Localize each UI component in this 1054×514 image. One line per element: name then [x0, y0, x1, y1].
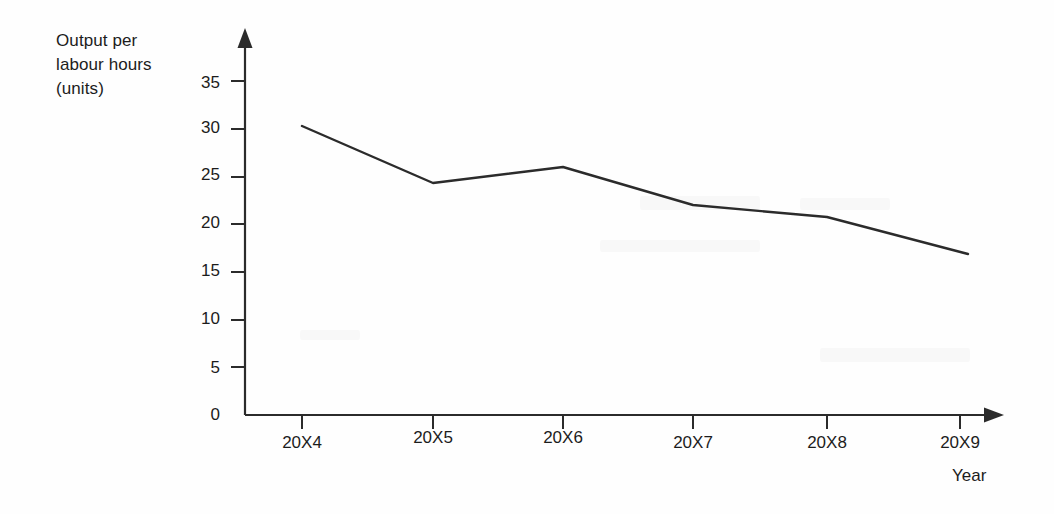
- y-axis-arrowhead: [238, 28, 253, 48]
- x-axis-ticks: [302, 415, 960, 429]
- line-chart-figure: Output per labour hours (units) Year 35 …: [0, 0, 1054, 514]
- y-axis-ticks: [231, 81, 245, 367]
- data-series-line: [302, 126, 968, 254]
- chart-plot-area: [0, 0, 1054, 514]
- x-axis-arrowhead: [984, 408, 1004, 423]
- x-axis-group: [245, 408, 1004, 430]
- y-axis-group: [231, 28, 253, 415]
